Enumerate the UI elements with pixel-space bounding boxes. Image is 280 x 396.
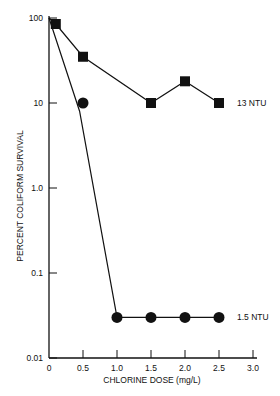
x-tick-label: 3.0 <box>247 363 259 373</box>
series-13-ntu: 13 NTU <box>49 18 266 108</box>
chart: 00.51.01.52.02.53.00.010.11.010100 13 NT… <box>0 0 280 396</box>
y-tick-label: 100 <box>29 13 43 23</box>
x-tick-label: 2.5 <box>213 363 225 373</box>
x-tick-label: 1.5 <box>145 363 157 373</box>
square-marker <box>214 98 224 108</box>
x-tick-label: 2.0 <box>179 363 191 373</box>
y-tick-label: 0.1 <box>31 268 43 278</box>
square-marker <box>78 52 88 62</box>
y-tick-label: 10 <box>34 98 44 108</box>
x-tick-label: 1.0 <box>111 363 123 373</box>
series-label: 1.5 NTU <box>237 312 269 322</box>
circle-marker <box>146 312 157 323</box>
series-line <box>49 18 219 317</box>
circle-marker <box>112 312 123 323</box>
circle-marker <box>180 312 191 323</box>
circle-marker <box>214 312 225 323</box>
y-tick-label: 1.0 <box>31 183 43 193</box>
x-axis-label: CHLORINE DOSE (mg/L) <box>103 375 200 385</box>
square-marker <box>146 98 156 108</box>
circle-marker <box>78 98 89 109</box>
plot-area: 13 NTU1.5 NTU <box>49 18 269 323</box>
x-tick-label: 0.5 <box>77 363 89 373</box>
series-line <box>49 18 219 103</box>
y-axis-label: PERCENT COLIFORM SURVIVAL <box>15 130 25 262</box>
series-1-5-ntu: 1.5 NTU <box>49 18 269 323</box>
square-marker <box>180 76 190 86</box>
series-label: 13 NTU <box>237 98 266 108</box>
x-tick-label: 0 <box>47 363 52 373</box>
y-tick-label: 0.01 <box>26 353 43 363</box>
